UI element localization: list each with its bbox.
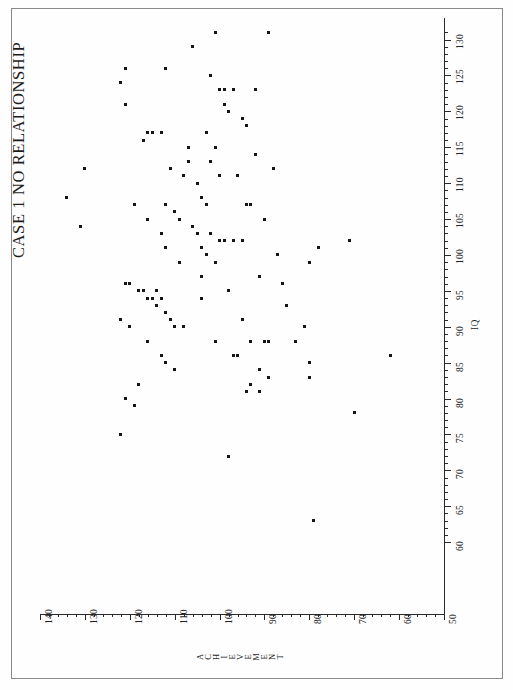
achievement-minor-tick: [282, 614, 283, 617]
iq-minor-tick: [445, 442, 448, 443]
data-point: [124, 282, 127, 285]
data-point: [241, 318, 244, 321]
data-point: [267, 31, 270, 34]
data-point: [169, 318, 172, 321]
data-point: [348, 239, 351, 242]
data-point: [200, 196, 203, 199]
iq-minor-tick: [445, 513, 448, 514]
data-point: [258, 368, 261, 371]
iq-minor-tick: [445, 248, 448, 249]
iq-minor-tick: [445, 406, 448, 407]
data-point: [308, 261, 311, 264]
achievement-major-tick: [85, 614, 86, 620]
iq-minor-tick: [445, 413, 448, 414]
data-point: [178, 218, 181, 221]
data-point: [263, 218, 266, 221]
iq-tick-label: 60: [455, 541, 465, 551]
data-point: [133, 203, 136, 206]
data-point: [164, 67, 167, 70]
data-point: [124, 103, 127, 106]
achievement-minor-tick: [166, 614, 167, 617]
achievement-minor-tick: [435, 614, 436, 617]
iq-minor-tick: [445, 190, 448, 191]
iq-tick-label: 80: [455, 397, 465, 407]
scanned-page: CASE 1 NO RELATIONSHIP 14013012011010090…: [0, 0, 513, 690]
data-point: [232, 239, 235, 242]
data-point: [160, 131, 163, 134]
achievement-minor-tick: [112, 614, 113, 617]
data-point: [182, 325, 185, 328]
achievement-minor-tick: [426, 614, 427, 617]
achievement-tick-label: 110: [179, 609, 189, 624]
data-point: [227, 455, 230, 458]
achievement-major-tick: [354, 614, 355, 620]
data-point: [155, 304, 158, 307]
achievement-minor-tick: [148, 614, 149, 617]
data-point: [308, 376, 311, 379]
iq-minor-tick: [445, 61, 448, 62]
achievement-major-tick: [220, 614, 221, 620]
iq-minor-tick: [445, 68, 448, 69]
data-point: [191, 45, 194, 48]
data-point: [164, 246, 167, 249]
data-point: [137, 289, 140, 292]
data-point: [119, 433, 122, 436]
iq-minor-tick: [445, 119, 448, 120]
iq-minor-tick: [445, 334, 448, 335]
data-point: [308, 361, 311, 364]
iq-major-tick: [445, 399, 451, 400]
iq-minor-tick: [445, 54, 448, 55]
data-point: [209, 74, 212, 77]
data-point: [83, 167, 86, 170]
scatter-plot-area: [40, 18, 440, 615]
data-point: [124, 67, 127, 70]
data-point: [303, 325, 306, 328]
data-point: [232, 354, 235, 357]
data-point: [200, 246, 203, 249]
data-point: [142, 289, 145, 292]
data-point: [119, 318, 122, 321]
data-point: [227, 289, 230, 292]
achievement-tick-label: 140: [44, 609, 54, 624]
data-point: [164, 311, 167, 314]
data-point: [236, 174, 239, 177]
iq-minor-tick: [445, 492, 448, 493]
achievement-tick-label: 100: [224, 609, 234, 624]
iq-minor-tick: [445, 212, 448, 213]
iq-tick-label: 65: [455, 505, 465, 515]
data-point: [160, 354, 163, 357]
iq-major-tick: [445, 327, 451, 328]
iq-minor-tick: [445, 463, 448, 464]
iq-major-tick: [445, 434, 451, 435]
iq-minor-tick: [445, 456, 448, 457]
iq-minor-tick: [445, 226, 448, 227]
iq-minor-tick: [445, 521, 448, 522]
iq-major-tick: [445, 219, 451, 220]
iq-minor-tick: [445, 355, 448, 356]
iq-tick-label: 75: [455, 433, 465, 443]
data-point: [249, 203, 252, 206]
iq-minor-tick: [445, 47, 448, 48]
data-point: [249, 383, 252, 386]
data-point: [205, 203, 208, 206]
data-point: [155, 289, 158, 292]
data-point: [169, 167, 172, 170]
achievement-tick-label: 80: [313, 614, 323, 624]
data-point: [245, 124, 248, 127]
data-point: [173, 368, 176, 371]
data-point: [200, 297, 203, 300]
iq-minor-tick: [445, 485, 448, 486]
iq-major-tick: [445, 542, 451, 543]
achievement-minor-tick: [238, 614, 239, 617]
data-point: [241, 117, 244, 120]
iq-minor-tick: [445, 312, 448, 313]
iq-tick-label: 95: [455, 290, 465, 300]
achievement-tick-label: 90: [268, 614, 278, 624]
data-point: [200, 275, 203, 278]
data-point: [227, 110, 230, 113]
data-point: [218, 239, 221, 242]
achievement-tick-label: 60: [403, 614, 413, 624]
achievement-minor-tick: [255, 614, 256, 617]
achievement-tick-label: 70: [358, 614, 368, 624]
achievement-minor-tick: [103, 614, 104, 617]
